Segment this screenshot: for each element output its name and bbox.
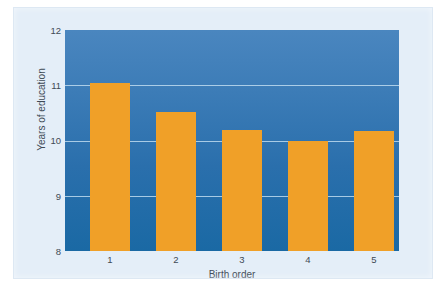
y-tick-label: 10 xyxy=(31,136,61,145)
x-tick-label: 1 xyxy=(90,254,130,266)
x-axis-title: Birth order xyxy=(65,269,399,280)
chart-panel: Years of education 12 11 10 9 8 1 2 3 4 xyxy=(14,8,432,278)
x-tick-label: 3 xyxy=(222,254,262,266)
plot-area xyxy=(65,30,399,251)
bar-birth-order-5 xyxy=(354,131,394,251)
bar-birth-order-1 xyxy=(90,83,130,252)
y-tick-label: 12 xyxy=(31,26,61,35)
x-axis-tick-labels: 1 2 3 4 5 xyxy=(65,254,399,268)
y-tick-label: 9 xyxy=(31,192,61,201)
bar-birth-order-4 xyxy=(288,141,328,252)
bar-birth-order-2 xyxy=(156,112,196,251)
bar-birth-order-3 xyxy=(222,130,262,252)
y-tick-label: 11 xyxy=(31,81,61,90)
x-tick-label: 5 xyxy=(354,254,394,266)
x-tick-label: 4 xyxy=(288,254,328,266)
figure-canvas: Years of education 12 11 10 9 8 1 2 3 4 xyxy=(0,0,446,300)
y-tick-label: 8 xyxy=(31,247,61,256)
y-axis-tick-labels: 12 11 10 9 8 xyxy=(29,30,61,251)
x-tick-label: 2 xyxy=(156,254,196,266)
